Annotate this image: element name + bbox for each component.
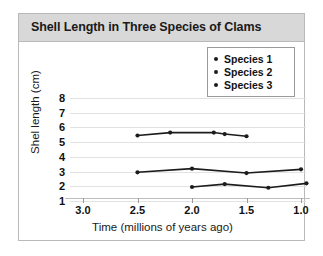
legend-item[interactable]: Species 3 bbox=[214, 79, 289, 91]
series-line bbox=[138, 133, 247, 137]
legend-item[interactable]: Species 2 bbox=[214, 66, 289, 78]
series-data-point bbox=[135, 170, 139, 174]
series-data-point bbox=[223, 182, 227, 186]
series-data-point bbox=[212, 130, 216, 134]
series-data-point bbox=[299, 167, 303, 171]
legend-marker-dot-icon bbox=[214, 83, 218, 87]
series-data-point bbox=[304, 181, 308, 185]
plot-area: 87654321 Shel length (cm) 3.02.52.01.51.… bbox=[19, 14, 306, 242]
series-data-point bbox=[168, 130, 172, 134]
legend-marker-dot-icon bbox=[214, 57, 218, 61]
legend-item-label: Species 1 bbox=[224, 53, 272, 65]
legend-marker-dot-icon bbox=[214, 70, 218, 74]
series-data-point bbox=[244, 171, 248, 175]
legend-item[interactable]: Species 1 bbox=[214, 53, 289, 65]
series-data-point bbox=[266, 186, 270, 190]
series-data-point bbox=[190, 185, 194, 189]
legend: Species 1Species 2Species 3 bbox=[207, 47, 295, 97]
series-line bbox=[192, 183, 306, 187]
series-data-point bbox=[244, 134, 248, 138]
series-data-point bbox=[223, 132, 227, 136]
series-line bbox=[138, 169, 302, 173]
series-data-point bbox=[190, 167, 194, 171]
legend-item-label: Species 3 bbox=[224, 79, 272, 91]
chart-figure: Shell Length in Three Species of Clams 8… bbox=[18, 13, 305, 241]
series-data-point bbox=[135, 133, 139, 137]
legend-item-label: Species 2 bbox=[224, 66, 272, 78]
